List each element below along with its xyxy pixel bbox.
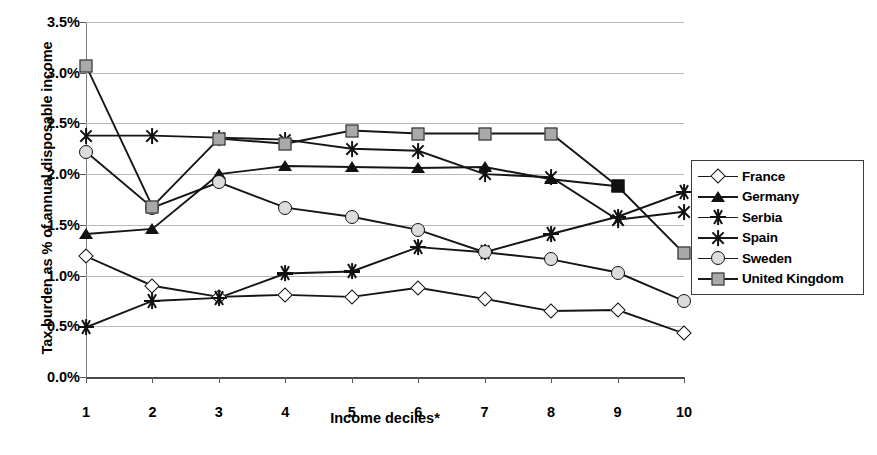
chart-figure: Tax burden as % of annual disposable inc…	[0, 0, 877, 455]
x-axis-tick	[485, 377, 486, 383]
y-axis-tick-label: 2.5%	[47, 115, 80, 131]
x-axis-tick	[551, 377, 552, 383]
x-axis-tick	[418, 377, 419, 383]
legend-label: Serbia	[739, 210, 782, 225]
y-axis-tick-label: 3.5%	[47, 14, 80, 30]
series-line-sweden	[86, 152, 684, 301]
plot-area: 12345678910	[86, 22, 684, 377]
legend-label: Spain	[739, 230, 778, 245]
legend-marker-icon	[697, 248, 739, 268]
series-line-serbia	[86, 192, 684, 327]
y-axis-tick-label: 2.0%	[47, 166, 80, 182]
legend-item-france[interactable]: France	[697, 166, 857, 187]
x-axis-tick	[219, 377, 220, 383]
x-axis-tick	[152, 377, 153, 383]
x-axis-tick	[352, 377, 353, 383]
y-axis-tick-label: 0.0%	[47, 369, 80, 385]
x-axis-line	[86, 377, 684, 379]
legend-item-spain[interactable]: Spain	[697, 228, 857, 249]
x-axis-tick	[86, 377, 87, 383]
y-axis-tick-label: 1.0%	[47, 268, 80, 284]
legend-marker-icon	[697, 269, 739, 289]
legend-item-united-kingdom[interactable]: United Kingdom	[697, 269, 857, 290]
y-axis-tick-labels: 0.0%0.5%1.0%1.5%2.0%2.5%3.0%3.5%	[16, 22, 80, 377]
y-axis-tick-label: 3.0%	[47, 65, 80, 81]
legend-label: Germany	[739, 189, 799, 204]
legend-marker-icon	[697, 207, 739, 227]
legend-item-serbia[interactable]: Serbia	[697, 207, 857, 228]
legend-label: France	[739, 169, 785, 184]
x-axis-tick	[618, 377, 619, 383]
x-axis-tick	[285, 377, 286, 383]
y-axis-tick-label: 1.5%	[47, 217, 80, 233]
y-axis-tick-label: 0.5%	[47, 318, 80, 334]
legend-label: United Kingdom	[739, 271, 843, 286]
legend-item-sweden[interactable]: Sweden	[697, 248, 857, 269]
plot-canvas: 12345678910	[86, 22, 684, 377]
series-lines	[86, 22, 684, 377]
x-axis-tick	[684, 377, 685, 383]
series-line-spain	[86, 136, 684, 220]
chart-legend: FranceGermanySerbiaSpainSwedenUnited Kin…	[691, 160, 864, 295]
legend-marker-icon	[697, 228, 739, 248]
legend-label: Sweden	[739, 251, 792, 266]
legend-item-germany[interactable]: Germany	[697, 187, 857, 208]
x-axis-title: Income deciles*	[86, 410, 684, 426]
series-line-united-kingdom	[86, 66, 684, 254]
legend-marker-icon	[697, 166, 739, 186]
legend-marker-icon	[697, 187, 739, 207]
